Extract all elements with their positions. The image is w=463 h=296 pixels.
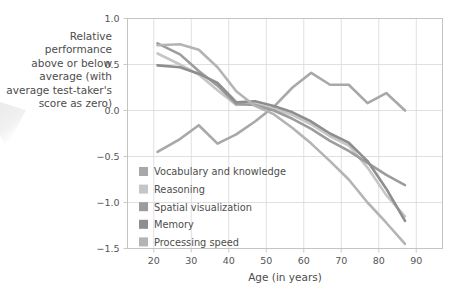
y-tick-label: 0.5 [104,59,119,70]
x-tick-label: 50 [260,255,272,266]
y-tick-labels: 1.00.50.0−0.5−1.0−1.5 [96,13,119,254]
gridlines-horizontal [128,65,443,203]
legend-swatch [139,185,148,194]
y-tick-label: −1.5 [96,243,119,254]
x-axis-title: Age (in years) [248,271,322,283]
data-series-group [158,43,406,244]
legend-label: Reasoning [154,184,205,195]
chart-figure: Relative performance above or below aver… [0,0,463,296]
x-tick-label: 30 [185,255,197,266]
series-line [158,65,406,220]
legend-swatch [139,237,148,246]
x-tick-marks [154,249,417,253]
legend-label: Processing speed [154,237,239,248]
x-tick-labels: 2030405060708090 [148,255,423,266]
x-tick-label: 60 [298,255,310,266]
chart-legend: Vocabulary and knowledgeReasoningSpatial… [139,166,286,247]
y-tick-label: −0.5 [96,151,119,162]
x-tick-label: 90 [410,255,422,266]
y-tick-marks [124,19,128,249]
y-tick-label: 0.0 [104,105,119,116]
legend-swatch [139,220,148,229]
legend-swatch [139,202,148,211]
y-tick-label: −1.0 [96,197,119,208]
x-tick-label: 40 [223,255,235,266]
line-chart-canvas: 1.00.50.0−0.5−1.0−1.5 2030405060708090 A… [0,0,463,296]
x-tick-label: 20 [148,255,160,266]
y-tick-label: 1.0 [104,13,119,24]
x-tick-label: 80 [373,255,385,266]
series-line [158,44,406,244]
legend-swatch [139,167,148,176]
legend-label: Memory [154,219,194,230]
legend-label: Spatial visualization [154,202,252,213]
x-tick-label: 70 [335,255,347,266]
legend-label: Vocabulary and knowledge [154,166,286,177]
